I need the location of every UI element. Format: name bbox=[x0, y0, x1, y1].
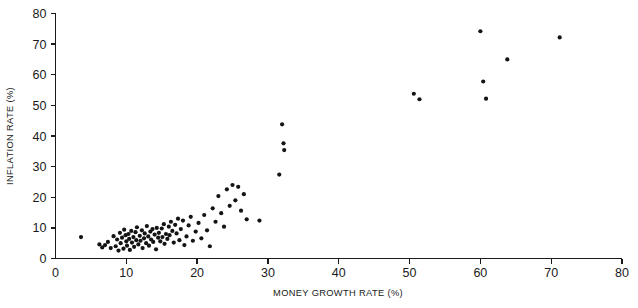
data-point bbox=[157, 231, 161, 235]
data-point bbox=[281, 141, 285, 145]
data-point bbox=[169, 220, 173, 224]
data-point bbox=[147, 244, 151, 248]
data-point bbox=[153, 233, 157, 237]
data-point bbox=[172, 240, 176, 244]
data-point bbox=[187, 223, 191, 227]
data-point bbox=[177, 238, 181, 242]
data-point bbox=[151, 240, 155, 244]
data-point bbox=[174, 231, 178, 235]
data-point bbox=[230, 183, 234, 187]
data-point bbox=[208, 244, 212, 248]
x-tick-label-20: 20 bbox=[190, 266, 204, 280]
data-point bbox=[222, 225, 226, 229]
data-point bbox=[141, 246, 145, 250]
data-point bbox=[150, 227, 154, 231]
data-point bbox=[505, 57, 509, 61]
data-point bbox=[111, 234, 115, 238]
y-tick-label-70: 70 bbox=[33, 38, 47, 52]
x-axis-tick-labels: 01020304050607080 bbox=[52, 266, 629, 280]
data-point bbox=[106, 240, 110, 244]
y-tick-label-50: 50 bbox=[33, 99, 47, 113]
data-point bbox=[484, 97, 488, 101]
data-point bbox=[162, 222, 166, 226]
data-point bbox=[127, 237, 131, 241]
y-tick-label-20: 20 bbox=[33, 191, 47, 205]
x-tick-label-50: 50 bbox=[403, 266, 417, 280]
data-point bbox=[236, 185, 240, 189]
data-point bbox=[138, 239, 142, 243]
data-point bbox=[216, 194, 220, 198]
data-point bbox=[191, 239, 195, 243]
x-tick-label-10: 10 bbox=[119, 266, 133, 280]
scatter-points-group bbox=[79, 29, 562, 252]
data-point bbox=[136, 242, 140, 246]
money-growth-vs-inflation-scatter: 01020304050607080 01020304050607080 INFL… bbox=[0, 0, 638, 308]
data-point bbox=[132, 245, 136, 249]
x-tick-label-30: 30 bbox=[261, 266, 275, 280]
data-point bbox=[155, 226, 159, 230]
data-point bbox=[120, 236, 124, 240]
y-tick-label-10: 10 bbox=[33, 221, 47, 235]
data-point bbox=[228, 204, 232, 208]
data-point bbox=[160, 235, 164, 239]
data-point bbox=[138, 234, 142, 238]
data-point bbox=[131, 235, 135, 239]
data-point bbox=[181, 218, 185, 222]
data-point bbox=[213, 220, 217, 224]
data-point bbox=[184, 234, 188, 238]
data-point bbox=[282, 148, 286, 152]
data-point bbox=[154, 247, 158, 251]
y-axis-tick-labels: 01020304050607080 bbox=[33, 7, 47, 266]
axis-lines bbox=[55, 13, 622, 259]
data-point bbox=[122, 228, 126, 232]
data-point bbox=[145, 224, 149, 228]
data-point bbox=[173, 223, 177, 227]
scatter-chart-figure: 01020304050607080 01020304050607080 INFL… bbox=[0, 0, 638, 308]
x-tick-label-0: 0 bbox=[52, 266, 59, 280]
data-point bbox=[225, 187, 229, 191]
data-point bbox=[245, 217, 249, 221]
data-point bbox=[162, 242, 166, 246]
data-point bbox=[115, 237, 119, 241]
data-point bbox=[142, 236, 146, 240]
data-point bbox=[156, 236, 160, 240]
data-point bbox=[134, 238, 138, 242]
data-point bbox=[158, 239, 162, 243]
data-point bbox=[277, 172, 281, 176]
y-axis-title: INFLATION RATE (%) bbox=[5, 87, 15, 185]
data-point bbox=[130, 240, 134, 244]
y-tick-label-0: 0 bbox=[40, 252, 47, 266]
data-point bbox=[199, 236, 203, 240]
data-point bbox=[160, 226, 164, 230]
data-point bbox=[125, 244, 129, 248]
figure-caption-strip bbox=[0, 299, 638, 308]
data-point bbox=[128, 248, 132, 252]
data-point bbox=[114, 244, 118, 248]
data-point bbox=[481, 79, 485, 83]
data-point bbox=[119, 241, 123, 245]
data-point bbox=[143, 231, 147, 235]
data-point bbox=[170, 229, 174, 233]
data-point bbox=[116, 248, 120, 252]
x-axis-title: MONEY GROWTH RATE (%) bbox=[273, 288, 403, 298]
data-point bbox=[176, 217, 180, 221]
x-tick-label-60: 60 bbox=[473, 266, 487, 280]
data-point bbox=[189, 215, 193, 219]
data-point bbox=[558, 35, 562, 39]
data-point bbox=[239, 209, 243, 213]
data-point bbox=[233, 198, 237, 202]
data-point bbox=[79, 235, 83, 239]
y-tick-label-60: 60 bbox=[33, 68, 47, 82]
data-point bbox=[179, 227, 183, 231]
data-point bbox=[165, 237, 169, 241]
data-point bbox=[412, 92, 416, 96]
data-point bbox=[129, 229, 133, 233]
data-point bbox=[133, 230, 137, 234]
data-point bbox=[211, 206, 215, 210]
y-tick-label-40: 40 bbox=[33, 130, 47, 144]
data-point bbox=[205, 228, 209, 232]
data-point bbox=[196, 221, 200, 225]
data-point bbox=[202, 213, 206, 217]
data-point bbox=[219, 211, 223, 215]
data-point bbox=[121, 247, 125, 251]
